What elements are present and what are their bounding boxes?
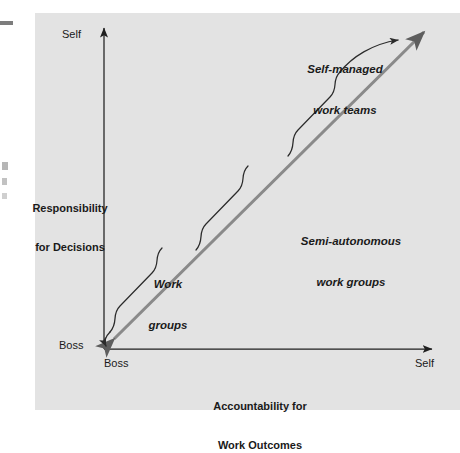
y-axis-title-line2: for Decisions	[16, 241, 124, 254]
callout-line2: work groups	[290, 276, 412, 290]
y-axis-tick-low: Boss	[59, 339, 83, 352]
callout-self-managed-work-teams: Self-managed work teams	[289, 36, 401, 145]
callout-line2: work teams	[289, 104, 401, 118]
callout-line2: groups	[138, 319, 198, 333]
callout-line1: Work	[138, 278, 198, 292]
callout-line1: Semi-autonomous	[290, 235, 412, 249]
y-axis-title: Responsibility for Decisions	[16, 176, 124, 280]
callout-work-groups: Work groups	[138, 251, 198, 360]
brace-semi-autonomous	[196, 166, 248, 250]
callout-semi-autonomous-work-groups: Semi-autonomous work groups	[290, 208, 412, 317]
x-axis-tick-high: Self	[415, 357, 434, 370]
y-axis-tick-high: Self	[62, 28, 81, 41]
x-axis-title-line1: Accountability for	[150, 400, 370, 413]
brace-work-groups-leader	[105, 332, 110, 346]
x-axis-title-line2: Work Outcomes	[150, 439, 370, 452]
x-axis-title: Accountability for Work Outcomes	[150, 374, 370, 453]
x-axis-tick-low: Boss	[104, 357, 128, 370]
callout-line1: Self-managed	[289, 63, 401, 77]
y-axis-title-line1: Responsibility	[16, 202, 124, 215]
